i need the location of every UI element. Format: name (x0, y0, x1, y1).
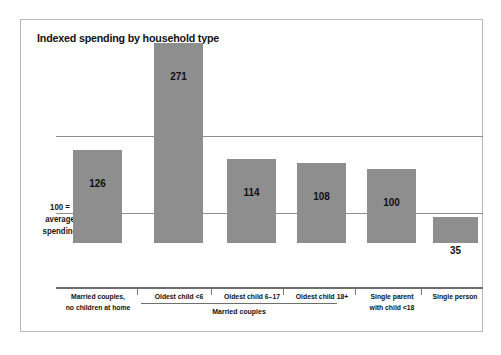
bar-value-271: 271 (156, 70, 200, 82)
bar-oldest-child-6-17 (227, 159, 276, 243)
plot-area: 100 = average spending 126 271 114 108 1… (21, 20, 482, 331)
category-label-line-2: with child <18 (360, 303, 424, 314)
category-label-oldest-child-18-plus: Oldest child 18+ (288, 292, 356, 303)
bar-oldest-child-18-plus (297, 163, 346, 243)
category-label-line-1: Single person (426, 292, 485, 303)
chart-figure: Indexed spending by household type 100 =… (20, 19, 483, 332)
bar-value-126: 126 (75, 177, 119, 189)
category-label-line-1: Married couples, (60, 292, 135, 303)
category-label-oldest-child-under-6: Oldest child <6 (145, 292, 213, 303)
bar-married-couples-no-children (73, 150, 122, 243)
category-label-oldest-child-6-17: Oldest child 6–17 (217, 292, 287, 303)
bar-value-100: 100 (369, 196, 413, 208)
bar-single-person (433, 217, 478, 243)
category-label-line-2: no children at home (60, 303, 135, 314)
group-bracket-label: Married couples (149, 307, 329, 316)
bar-value-108: 108 (299, 190, 343, 202)
category-label-line-1: Oldest child 6–17 (217, 292, 287, 303)
axis-tick-1 (137, 289, 138, 295)
category-label-single-parent-child-under-18: Single parent with child <18 (360, 292, 424, 313)
category-label-line-1: Single parent (360, 292, 424, 303)
gridline-200 (56, 136, 483, 137)
bar-value-114: 114 (229, 186, 273, 198)
category-label-line-1: Oldest child <6 (145, 292, 213, 303)
category-label-line-1: Oldest child 18+ (288, 292, 356, 303)
bar-value-35: 35 (435, 244, 476, 256)
category-label-married-couples-no-children: Married couples, no children at home (60, 292, 135, 313)
x-axis-line (56, 287, 483, 289)
group-bracket-rule (141, 303, 337, 304)
category-label-single-person: Single person (426, 292, 485, 303)
